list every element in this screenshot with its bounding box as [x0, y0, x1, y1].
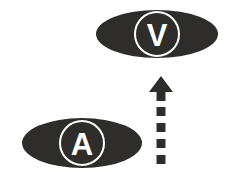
auditory-node-label: A: [71, 127, 93, 162]
arrow-dash-segment-2: [157, 123, 166, 132]
diagram-svg: V A: [0, 0, 237, 188]
node-auditory[interactable]: A: [22, 118, 142, 168]
node-visual[interactable]: V: [96, 10, 218, 58]
visual-node-label: V: [147, 18, 168, 53]
arrow-dash-segment-1: [157, 107, 166, 116]
arrow-dash-segment-3: [157, 139, 166, 148]
diagram-canvas: V A: [0, 0, 237, 188]
arrow-dash-segment-4: [157, 155, 166, 164]
